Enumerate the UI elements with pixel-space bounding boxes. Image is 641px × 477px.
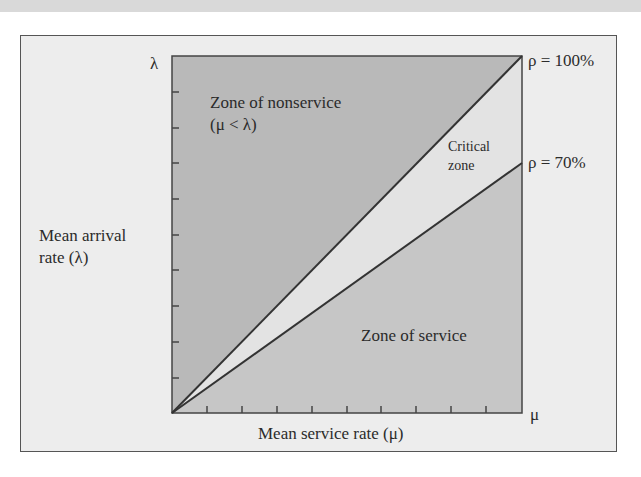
zone-nonservice-label: Zone of nonservice [210,93,341,113]
rho-70-label: ρ = 70% [528,153,586,173]
zone-service-label: Zone of service [361,326,467,346]
critical-zone-label-line1: Critical [448,137,490,157]
x-axis-label: Mean service rate (μ) [258,424,404,444]
rho-100-label: ρ = 100% [528,51,594,71]
zone-nonservice-condition: (μ < λ) [210,115,257,135]
y-axis-symbol: λ [150,54,158,74]
x-axis-symbol: μ [530,405,539,425]
critical-zone-label-line2: zone [448,156,474,176]
y-axis-label-line2: rate (λ) [39,248,88,268]
y-axis-label-line1: Mean arrival [39,226,126,246]
